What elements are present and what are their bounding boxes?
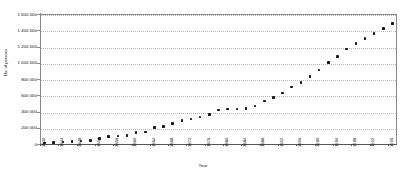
x-tick-mark: [132, 144, 133, 146]
x-tick-mark: [351, 144, 352, 146]
x-tick-mark: [150, 144, 151, 146]
y-axis-title: No. of persons: [3, 34, 8, 92]
x-tick-mark: [205, 144, 206, 146]
x-tick-label: 1876: [207, 138, 212, 147]
y-tick-label: 400 000: [21, 109, 37, 114]
y-tick-mark: [37, 95, 40, 96]
x-tick-mark: [333, 144, 334, 146]
x-tick-label: 1884: [243, 138, 248, 147]
x-tick-label: 1896: [298, 138, 303, 147]
x-tick-mark: [58, 144, 59, 146]
data-point: [345, 48, 348, 51]
data-point: [382, 27, 385, 30]
x-tick-label: 1868: [170, 138, 175, 147]
gridline: [40, 129, 396, 130]
data-point: [309, 75, 312, 78]
data-point: [391, 22, 394, 25]
y-tick-mark: [37, 112, 40, 113]
data-point: [217, 109, 220, 112]
y-tick-label: 600 000: [21, 93, 37, 98]
x-tick-mark: [388, 144, 389, 146]
data-point: [245, 107, 248, 110]
gridline: [40, 113, 396, 114]
y-tick-mark: [37, 30, 40, 31]
data-point: [107, 135, 110, 138]
y-tick-mark: [37, 128, 40, 129]
data-point: [126, 134, 129, 137]
data-point: [71, 140, 74, 143]
gridline: [40, 80, 396, 81]
gridline: [40, 31, 396, 32]
y-tick-label: 1 400 000: [17, 28, 37, 33]
x-tick-label: 1856: [115, 138, 120, 147]
x-tick-mark: [168, 144, 169, 146]
x-tick-mark: [315, 144, 316, 146]
x-tick-mark: [241, 144, 242, 146]
data-point: [272, 96, 275, 99]
data-point: [144, 131, 147, 134]
data-point: [190, 118, 193, 121]
data-point: [89, 139, 92, 142]
data-point: [43, 142, 46, 145]
plot-area: [40, 14, 397, 144]
x-tick-mark: [95, 144, 96, 146]
x-tick-mark: [77, 144, 78, 146]
x-tick-label: 1912: [371, 138, 376, 147]
x-axis-title: Year: [0, 163, 406, 168]
x-axis-line: [40, 144, 397, 145]
y-tick-mark: [37, 63, 40, 64]
x-tick-label: 1904: [335, 138, 340, 147]
x-tick-mark: [260, 144, 261, 146]
x-tick-mark: [370, 144, 371, 146]
x-tick-label: 1872: [188, 138, 193, 147]
data-point: [162, 125, 165, 128]
gridline: [40, 64, 396, 65]
y-tick-label: 1 000 000: [17, 60, 37, 65]
y-tick-label: 1 600 000: [17, 12, 37, 17]
data-point: [208, 113, 211, 116]
y-tick-mark: [37, 14, 40, 15]
gridline: [40, 96, 396, 97]
gridline: [40, 48, 396, 49]
scatter-chart: 0200 000400 000600 000800 0001 000 0001 …: [0, 0, 406, 178]
x-tick-mark: [113, 144, 114, 146]
data-point: [181, 119, 184, 122]
x-tick-label: 1880: [225, 138, 230, 147]
data-point: [300, 81, 303, 84]
data-point: [52, 141, 55, 144]
data-point: [171, 122, 174, 125]
data-point: [327, 61, 330, 64]
data-point: [336, 55, 339, 58]
x-tick-label: 1864: [152, 138, 157, 147]
y-tick-label: 200 000: [21, 125, 37, 130]
data-point: [98, 137, 101, 140]
data-point: [281, 92, 284, 95]
x-tick-mark: [186, 144, 187, 146]
x-tick-label: 1908: [353, 138, 358, 147]
y-axis-line: [40, 13, 41, 145]
x-tick-mark: [296, 144, 297, 146]
gridline: [40, 15, 396, 16]
data-point: [226, 108, 229, 111]
data-point: [355, 42, 358, 45]
x-tick-label: 1900: [316, 138, 321, 147]
x-tick-mark: [223, 144, 224, 146]
data-point: [117, 135, 120, 138]
x-tick-mark: [278, 144, 279, 146]
x-tick-label: 1860: [133, 138, 138, 147]
data-point: [364, 37, 367, 40]
y-tick-label: 1 200 000: [17, 44, 37, 49]
x-tick-label: 1892: [280, 138, 285, 147]
y-tick-mark: [37, 79, 40, 80]
y-tick-label: 800 000: [21, 77, 37, 82]
y-tick-mark: [37, 47, 40, 48]
data-point: [153, 126, 156, 129]
x-tick-mark: [40, 144, 41, 146]
x-tick-label: 1888: [261, 138, 266, 147]
x-tick-label: 1916: [390, 138, 395, 147]
